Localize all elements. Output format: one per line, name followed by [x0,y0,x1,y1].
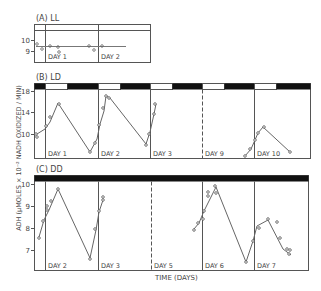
panel-a-title: (A) LL [36,14,60,23]
panel-b-day-label: DAY 10 [257,150,280,158]
panel-b-light-dark-bar [35,84,311,90]
panel-a-day-label: DAY 1 [48,53,67,61]
panel-c [31,176,309,271]
panel-b-frame [35,84,311,159]
panel-b-day-label: DAY 1 [48,150,67,158]
panel-c-day-label: DAY 3 [101,262,120,270]
panel-b-day-label: DAY 9 [205,150,224,158]
panel-c-series-late [194,187,291,262]
panel-c-day-label: DAY 7 [257,262,276,270]
adh-rhythm-figure: (A) LL (B) LD (C) DD 10 9 18 14 10 10 9 … [0,0,321,291]
panel-c-points [38,185,292,264]
panel-a-ytick: 10 [21,37,30,45]
x-axis-label: TIME (DAYS) [154,274,198,282]
panel-c-dark-bar [35,176,309,182]
panel-c-frame [35,176,309,271]
panel-b-day-label: DAY 3 [153,150,172,158]
panel-c-ytick: 9 [26,203,30,211]
panel-c-title: (C) DD [36,165,63,174]
y-axis-label: ADH (μMOLES × 10⁻² NADH OXIDIZED / MIN) [15,85,23,231]
panel-c-ytick: 7 [26,247,30,255]
panel-b-title: (B) LD [36,73,61,82]
panel-a-day-label: DAY 2 [101,53,120,61]
panel-c-series-early [39,189,103,258]
panel-b-day-label: DAY 2 [101,150,120,158]
panel-b [31,84,311,159]
panel-c-day-label: DAY 2 [48,262,67,270]
panel-a-ytick: 9 [26,48,30,56]
panel-c-day-label: DAY 5 [154,262,173,270]
panel-c-day-label: DAY 6 [205,262,224,270]
panel-c-ytick: 8 [26,225,30,233]
